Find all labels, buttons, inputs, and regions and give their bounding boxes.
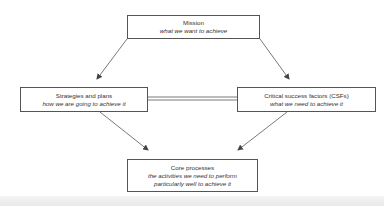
arrow-csfs-to-core	[238, 112, 287, 150]
arrow-strategies-to-core	[100, 112, 148, 150]
node-csfs-subtitle: what we need to achieve it	[270, 100, 343, 108]
node-csfs: Critical success factors (CSFs) what we …	[237, 87, 376, 112]
arrow-mission-to-csfs	[260, 39, 289, 79]
arrow-mission-to-strategies	[97, 39, 127, 79]
node-strategies-title: Strategies and plans	[56, 92, 112, 100]
node-core-processes: Core processes the activities we need to…	[127, 159, 258, 192]
node-mission: Mission what we want to achieve	[127, 15, 260, 39]
page-bottom-edge	[0, 196, 384, 206]
node-strategies: Strategies and plans how we are going to…	[20, 87, 148, 112]
node-csfs-title: Critical success factors (CSFs)	[264, 92, 349, 100]
node-mission-title: Mission	[183, 19, 204, 27]
node-mission-subtitle: what we want to achieve	[160, 27, 227, 35]
node-core-subtitle-line-2: particularly well to achieve it	[154, 180, 231, 188]
node-core-title: Core processes	[171, 164, 214, 172]
node-strategies-subtitle: how we are going to achieve it	[42, 100, 125, 108]
node-core-subtitle-line-1: the activities we need to perform	[148, 172, 237, 180]
